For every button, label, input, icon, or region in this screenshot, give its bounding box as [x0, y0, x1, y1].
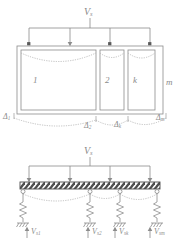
top-load-bracket — [29, 18, 150, 44]
cell-label-k: k — [133, 76, 137, 85]
cell-label-1: 1 — [33, 76, 38, 85]
cell-label-2: 2 — [105, 76, 110, 85]
spring-supports — [17, 193, 164, 227]
reaction-label-s1: Vs1 — [31, 228, 41, 236]
top-load-label: Vs — [84, 7, 93, 18]
reaction-label-s2: Vs2 — [92, 228, 102, 236]
rigid-beam — [20, 182, 160, 189]
cell-deflection-curves — [21, 53, 155, 62]
deflection-label-m: Δm — [156, 114, 164, 122]
deflection-label-k: Δk — [114, 121, 121, 129]
deflection-label-1: Δ1 — [3, 113, 10, 121]
reaction-label-sk: Vsk — [119, 228, 128, 236]
reaction-arrows — [27, 229, 150, 238]
ground-symbol-1 — [17, 223, 30, 227]
frame-outer-rect — [17, 46, 163, 114]
figure-svg — [0, 0, 180, 241]
cell-2-rect — [100, 50, 124, 110]
bottom-load-bracket — [29, 157, 150, 180]
bottom-load-label: Vs — [84, 146, 93, 157]
reaction-label-sm: Vsm — [154, 228, 165, 236]
deflection-label-2: Δ2 — [84, 122, 91, 130]
beam-support-nodes — [21, 190, 159, 194]
figure-canvas: Vs 1 2 k m Δ1 Δ2 Δk Δm Vs Vs1 Vs2 Vsk Vs… — [0, 0, 180, 241]
frame-outer-label-m: m — [166, 78, 173, 87]
